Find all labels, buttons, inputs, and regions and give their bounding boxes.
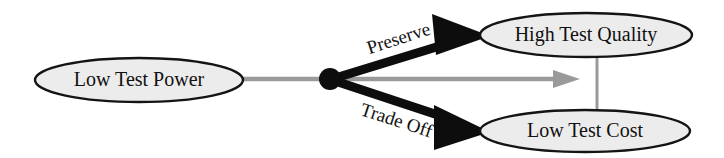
node-high-test-quality-label: High Test Quality (515, 23, 658, 46)
diagram-svg: Low Test Power High Test Quality Low Tes… (0, 0, 724, 158)
node-high-test-quality[interactable]: High Test Quality (480, 13, 692, 57)
node-low-test-cost[interactable]: Low Test Cost (480, 110, 690, 152)
branch-junction-dot (319, 68, 341, 90)
node-low-test-power-label: Low Test Power (74, 68, 205, 90)
gray-arrowhead-icon (553, 70, 580, 88)
diagram-canvas: Low Test Power High Test Quality Low Tes… (0, 0, 724, 158)
node-low-test-power[interactable]: Low Test Power (35, 58, 243, 102)
node-low-test-cost-label: Low Test Cost (527, 119, 643, 141)
